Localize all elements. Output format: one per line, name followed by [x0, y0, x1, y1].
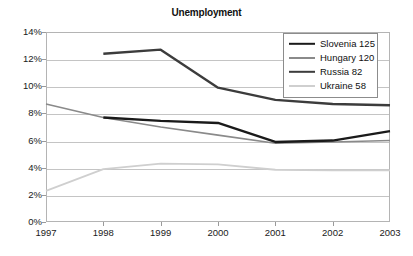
- unemployment-line-chart: Unemployment Slovenia 125Hungary 120Russ…: [0, 0, 413, 256]
- legend-line-swatch-icon: [289, 39, 315, 49]
- legend-item-label: Russia 82: [320, 67, 362, 77]
- legend-line-swatch-icon: [289, 81, 315, 91]
- y-axis-tick-label: 6%: [2, 136, 42, 146]
- y-axis-tick-label: 0%: [2, 217, 42, 227]
- gridline-horizontal: [47, 142, 389, 143]
- legend-item-label: Slovenia 125: [320, 39, 375, 49]
- y-axis-tick-mark: [42, 86, 46, 87]
- legend-line-swatch-icon: [289, 53, 315, 63]
- x-axis-tick-label: 2003: [367, 228, 413, 238]
- x-axis-tick-mark: [275, 222, 276, 226]
- x-axis-tick-label: 1999: [138, 228, 184, 238]
- x-axis-tick-mark: [161, 222, 162, 226]
- x-axis-tick-label: 2000: [195, 228, 241, 238]
- x-axis-tick-mark: [218, 222, 219, 226]
- y-axis-tick-label: 4%: [2, 163, 42, 173]
- legend-item[interactable]: Hungary 120: [289, 51, 372, 65]
- y-axis-tick-mark: [42, 141, 46, 142]
- y-axis-tick-label: 8%: [2, 108, 42, 118]
- legend-item[interactable]: Ukraine 58: [289, 79, 372, 93]
- gridline-horizontal: [47, 196, 389, 197]
- y-axis-tick-mark: [42, 168, 46, 169]
- legend-item[interactable]: Russia 82: [289, 65, 372, 79]
- legend-item-label: Hungary 120: [320, 53, 374, 63]
- gridline-horizontal: [47, 114, 389, 115]
- x-axis-tick-mark: [333, 222, 334, 226]
- y-axis-tick-mark: [42, 195, 46, 196]
- y-axis-tick-label: 2%: [2, 190, 42, 200]
- legend-line-swatch-icon: [289, 67, 315, 77]
- chart-legend: Slovenia 125Hungary 120Russia 82Ukraine …: [283, 33, 378, 98]
- x-axis-tick-label: 1997: [23, 228, 69, 238]
- x-axis-tick-mark: [103, 222, 104, 226]
- x-axis-tick-label: 2002: [310, 228, 356, 238]
- y-axis-tick-mark: [42, 59, 46, 60]
- chart-title: Unemployment: [0, 7, 413, 18]
- y-axis-tick-label: 10%: [2, 81, 42, 91]
- y-axis-tick-mark: [42, 32, 46, 33]
- legend-item-label: Ukraine 58: [320, 81, 366, 91]
- gridline-horizontal: [47, 169, 389, 170]
- y-axis-tick-label: 14%: [2, 27, 42, 37]
- legend-item[interactable]: Slovenia 125: [289, 37, 372, 51]
- y-axis-tick-label: 12%: [2, 54, 42, 64]
- y-axis-tick-mark: [42, 113, 46, 114]
- y-axis-tick-mark: [42, 222, 46, 223]
- x-axis-tick-label: 2001: [252, 228, 298, 238]
- x-axis-tick-label: 1998: [80, 228, 126, 238]
